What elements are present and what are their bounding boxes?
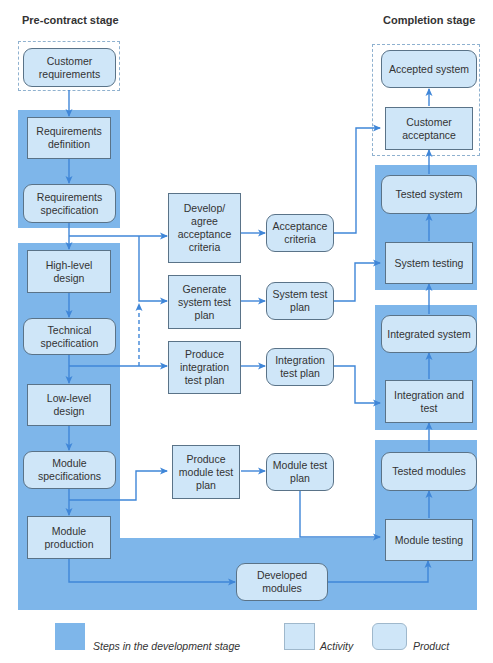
- node-generate-system-test-plan: Generate system test plan: [168, 275, 241, 329]
- node-system-test-plan: System test plan: [266, 282, 334, 320]
- legend-swatch-steps: [55, 623, 85, 650]
- node-system-testing: System testing: [385, 242, 473, 284]
- node-accepted-system: Accepted system: [381, 50, 477, 88]
- legend-label-product: Product: [413, 640, 449, 652]
- node-produce-module-test-plan: Produce module test plan: [172, 445, 240, 499]
- node-module-testing: Module testing: [385, 519, 473, 561]
- legend-swatch-activity: [284, 623, 315, 650]
- legend-swatch-product: [372, 623, 407, 650]
- node-integration-and-test: Integration and test: [385, 380, 473, 423]
- node-tested-system: Tested system: [381, 175, 477, 214]
- node-requirements-specification: Requirements specification: [23, 184, 116, 223]
- node-acceptance-criteria: Acceptance criteria: [266, 214, 334, 252]
- node-developed-modules: Developed modules: [236, 563, 328, 601]
- node-module-production: Module production: [27, 516, 111, 559]
- node-integrated-system: Integrated system: [381, 315, 477, 353]
- node-module-specifications: Module specifications: [23, 451, 116, 489]
- legend-label-steps: Steps in the development stage: [93, 640, 240, 652]
- node-technical-specification: Technical specification: [23, 318, 116, 355]
- node-module-test-plan: Module test plan: [266, 453, 334, 491]
- node-customer-acceptance: Customer acceptance: [385, 107, 473, 150]
- node-low-level-design: Low-level design: [27, 384, 111, 426]
- node-requirements-definition: Requirements definition: [27, 117, 111, 159]
- node-integration-test-plan: Integration test plan: [266, 348, 334, 386]
- node-develop-agree-acceptance-criteria: Develop/ agree acceptance criteria: [168, 193, 241, 263]
- legend-label-activity: Activity: [320, 640, 353, 652]
- node-customer-requirements: Customer requirements: [23, 48, 116, 87]
- node-produce-integration-test-plan: Produce integration test plan: [168, 341, 241, 394]
- node-tested-modules: Tested modules: [381, 452, 477, 491]
- node-high-level-design: High-level design: [27, 250, 111, 293]
